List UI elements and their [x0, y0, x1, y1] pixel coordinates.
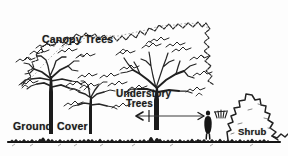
double-headed-scale-arrow: [136, 110, 204, 122]
ground-line: [8, 137, 280, 146]
small-plant-sprig: [214, 110, 228, 118]
forest-structure-figure: Canopy Trees Understory Trees Ground Cov…: [0, 0, 288, 156]
human-figure-for-scale: [204, 110, 211, 139]
label-ground: Ground: [13, 120, 52, 132]
label-shrub: Shrub: [238, 126, 266, 137]
label-cover: Cover: [57, 120, 88, 132]
label-understory-line2: Trees: [126, 98, 153, 109]
label-canopy-trees: Canopy Trees: [42, 33, 113, 45]
